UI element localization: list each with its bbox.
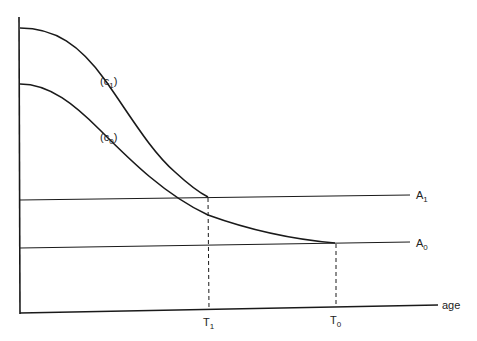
level-line-a0 bbox=[20, 242, 410, 248]
curve-c0 bbox=[20, 84, 335, 243]
tick-label-t1: T1 bbox=[203, 316, 215, 331]
y-axis bbox=[19, 17, 20, 314]
tick-label-t0: T0 bbox=[330, 314, 342, 329]
x-axis bbox=[20, 305, 438, 313]
curve-label-c1: (c1) bbox=[100, 75, 117, 90]
level-line-a1 bbox=[20, 195, 410, 200]
curve-c1 bbox=[20, 28, 208, 197]
level-label-a0: A0 bbox=[416, 237, 428, 252]
x-axis-label: age bbox=[442, 299, 460, 311]
diagram-canvas: age A1 A0 (c1) (c0) T1 T0 bbox=[0, 0, 477, 341]
level-label-a1: A1 bbox=[416, 189, 428, 204]
